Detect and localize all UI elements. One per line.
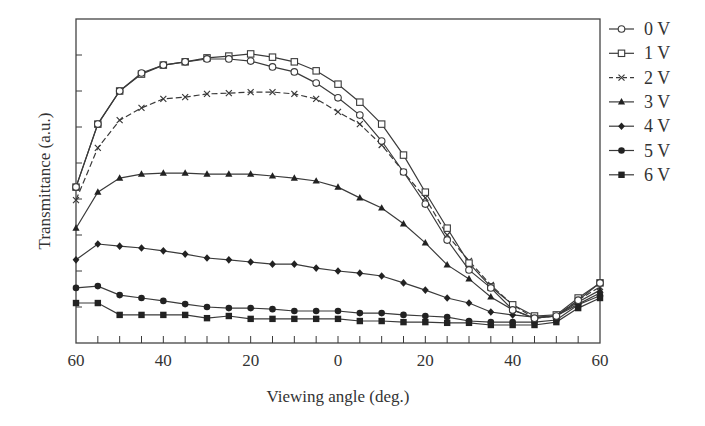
marker-circle-open: [553, 313, 560, 320]
marker-circle-open: [488, 285, 495, 292]
marker-x: [160, 96, 166, 102]
legend-label: 3 V: [644, 92, 670, 112]
marker-circle-open: [531, 315, 538, 322]
marker-diamond: [269, 260, 276, 268]
series-2v: [73, 89, 603, 321]
marker-circle-open: [291, 69, 298, 76]
marker-dot: [509, 319, 516, 326]
marker-circle-open: [378, 138, 385, 145]
marker-square-open: [291, 59, 297, 65]
legend-item: 1 V: [609, 43, 670, 63]
series-3v: [72, 169, 603, 320]
marker-square-filled: [378, 318, 384, 324]
legend-label: 0 V: [644, 19, 670, 39]
x-tick-label: 60: [592, 351, 609, 370]
legend-item: 5 V: [609, 141, 670, 161]
legend-item: 6 V: [609, 165, 670, 185]
legend: 0 V1 V2 V3 V4 V5 V6 V: [609, 19, 670, 185]
marker-circle-open: [335, 95, 342, 102]
x-axis-ticks: [98, 336, 578, 343]
marker-square-open: [444, 225, 450, 231]
marker-diamond: [204, 254, 211, 262]
marker-diamond: [444, 294, 451, 302]
marker-triangle: [247, 170, 254, 176]
marker-diamond: [400, 279, 407, 287]
marker-circle-open: [182, 59, 189, 66]
marker-x: [95, 145, 101, 151]
marker-x: [117, 117, 123, 123]
series-line: [76, 244, 600, 317]
marker-circle-open: [400, 169, 407, 176]
marker-square-filled: [247, 316, 253, 322]
marker-square-filled: [335, 316, 341, 322]
x-tick-label: 0: [334, 351, 343, 370]
marker-triangle: [182, 169, 189, 175]
marker-triangle: [225, 170, 232, 176]
marker-dot: [400, 312, 407, 319]
marker-x: [139, 105, 145, 111]
marker-diamond: [160, 247, 167, 255]
marker-diamond: [487, 308, 494, 316]
marker-triangle: [465, 275, 472, 281]
marker-square-open: [400, 152, 406, 158]
marker-dot: [116, 292, 123, 299]
marker-diamond: [618, 122, 625, 130]
marker-diamond: [378, 272, 385, 280]
series-line: [76, 173, 600, 318]
marker-circle-open: [204, 56, 211, 63]
marker-square-filled: [226, 313, 232, 319]
marker-circle-open: [313, 80, 320, 87]
marker-circle-open: [160, 62, 167, 69]
marker-dot: [618, 147, 625, 154]
y-axis-ticks: [76, 55, 82, 307]
marker-dot: [444, 314, 451, 321]
legend-item: 2 V: [609, 68, 670, 88]
marker-square-open: [378, 121, 384, 127]
marker-diamond: [73, 256, 80, 264]
marker-square-filled: [116, 312, 122, 318]
marker-square-filled: [204, 315, 210, 321]
marker-dot: [357, 310, 364, 317]
legend-item: 0 V: [609, 19, 670, 39]
marker-square-open: [422, 189, 428, 195]
x-tick-label: 20: [417, 351, 434, 370]
marker-dot: [204, 304, 211, 311]
x-axis-label: Viewing angle (deg.): [267, 387, 410, 406]
marker-diamond: [466, 299, 473, 307]
marker-x: [335, 109, 341, 115]
marker-circle-open: [509, 307, 516, 314]
marker-diamond: [247, 258, 254, 266]
marker-circle-open: [73, 184, 80, 191]
marker-dot: [138, 295, 145, 302]
marker-circle-open: [357, 112, 364, 119]
legend-label: 4 V: [644, 116, 670, 136]
marker-circle-open: [618, 26, 625, 33]
chart: 6040200204060 Viewing angle (deg.) Trans…: [0, 0, 705, 426]
series-line: [76, 92, 600, 318]
marker-square-filled: [182, 312, 188, 318]
marker-diamond: [356, 269, 363, 277]
marker-square-open: [335, 81, 341, 87]
x-axis-tick-labels: 6040200204060: [68, 351, 609, 370]
marker-triangle: [72, 224, 79, 230]
y-axis-label: Transmittance (a.u.): [35, 113, 54, 250]
marker-circle-open: [116, 88, 123, 95]
marker-dot: [313, 308, 320, 315]
legend-item: 4 V: [609, 116, 670, 136]
x-tick-label: 60: [68, 351, 85, 370]
x-tick-label: 40: [155, 351, 172, 370]
marker-square-filled: [422, 319, 428, 325]
marker-diamond: [225, 256, 232, 264]
marker-triangle: [400, 220, 407, 226]
marker-square-filled: [269, 316, 275, 322]
marker-dot: [422, 313, 429, 320]
plot-frame: [76, 19, 600, 343]
marker-circle-open: [575, 297, 582, 304]
marker-square-open: [357, 99, 363, 105]
marker-circle-open: [95, 121, 102, 128]
marker-circle-open: [597, 280, 604, 287]
marker-dot: [488, 319, 495, 326]
marker-square-open: [247, 51, 253, 57]
marker-circle-open: [444, 237, 451, 244]
marker-triangle: [94, 188, 101, 194]
